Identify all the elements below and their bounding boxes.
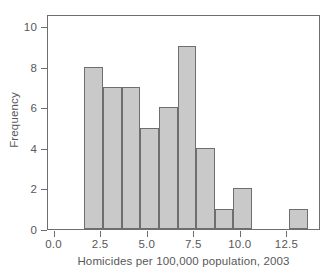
histogram-bar [233, 188, 252, 229]
y-axis-tick [41, 149, 47, 150]
x-axis-tick-label: 7.5 [170, 238, 216, 250]
histogram-bar [103, 87, 122, 229]
histogram-bar [140, 128, 159, 229]
x-axis-tick-label: 0.0 [31, 238, 77, 250]
histogram-bar [289, 209, 308, 229]
x-axis-tick [100, 231, 101, 237]
y-axis-tick-label: 10 [6, 21, 37, 33]
x-axis-tick-label: 10.0 [217, 238, 263, 250]
x-axis-tick-label: 2.5 [77, 238, 123, 250]
y-axis-tick [41, 68, 47, 69]
histogram-bar [196, 148, 215, 229]
y-axis-title: Frequency [8, 70, 20, 170]
plot-area [48, 16, 319, 229]
x-axis-tick-label: 5.0 [124, 238, 170, 250]
y-axis-tick-label: 0 [6, 224, 37, 236]
histogram-bar [215, 209, 234, 229]
y-axis-tick [41, 27, 47, 28]
x-axis-tick [54, 231, 55, 237]
x-axis-tick [193, 231, 194, 237]
histogram-figure: 0.02.55.07.510.012.5 0246810 Homicides p… [0, 0, 332, 280]
histogram-bar [84, 67, 103, 229]
y-axis-tick [41, 189, 47, 190]
x-axis-tick [286, 231, 287, 237]
x-axis-title: Homicides per 100,000 population, 2003 [47, 255, 320, 267]
x-axis-tick-label: 12.5 [263, 238, 309, 250]
plot-frame [47, 15, 320, 230]
histogram-bar [159, 107, 178, 229]
histogram-bar [122, 87, 141, 229]
histogram-bar [178, 46, 197, 229]
x-axis-tick [240, 231, 241, 237]
x-axis-tick [147, 231, 148, 237]
y-axis-tick [41, 230, 47, 231]
y-axis-tick [41, 108, 47, 109]
y-axis-tick-label: 2 [6, 183, 37, 195]
